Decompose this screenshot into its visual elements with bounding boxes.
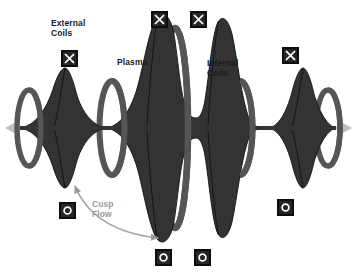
x-marker-top-center-2: [190, 11, 207, 28]
circle-icon: [197, 252, 208, 263]
plasma-cusp-diagram: External Coils Plasma Internal Coils Cus…: [0, 0, 357, 277]
label-cusp-flow: Cusp Flow: [92, 199, 114, 219]
x-marker-right: [282, 47, 299, 64]
circle-icon: [158, 252, 169, 263]
axis-arrowhead-right: [343, 123, 352, 133]
x-marker-top-center-1: [151, 11, 168, 28]
label-external-coils: External Coils: [51, 18, 85, 38]
o-marker-bottom-center-2: [194, 249, 211, 266]
o-marker-bottom-center-1: [155, 249, 172, 266]
circle-icon: [62, 205, 73, 216]
plasma-spine: [20, 126, 336, 130]
diagram-canvas: [0, 0, 357, 277]
cross-icon: [154, 14, 165, 25]
o-marker-left: [59, 202, 76, 219]
label-plasma: Plasma: [117, 57, 147, 67]
axis-arrowhead-left: [5, 123, 14, 133]
circle-icon: [280, 202, 291, 213]
cross-icon: [64, 53, 75, 64]
o-marker-right: [277, 199, 294, 216]
cross-icon: [193, 14, 204, 25]
cross-icon: [285, 50, 296, 61]
label-internal-coils: Internal Coils: [207, 58, 239, 78]
x-marker-external-left: [61, 50, 78, 67]
